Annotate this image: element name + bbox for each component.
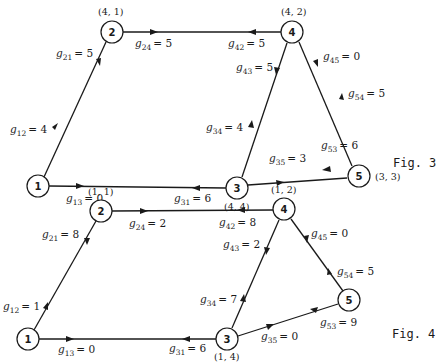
svg-text:5: 5 bbox=[356, 171, 363, 182]
label-g34: g34= 4 bbox=[206, 121, 243, 136]
svg-text:3: 3 bbox=[234, 183, 241, 194]
label-g31: g31= 6 bbox=[169, 342, 206, 357]
node-2: 2 (4, 1) bbox=[98, 6, 124, 43]
label-g45: g45= 0 bbox=[323, 50, 360, 65]
arrow-g45-icon bbox=[313, 59, 318, 67]
figure-3-caption: Fig. 3 bbox=[393, 156, 436, 170]
label-g43: g43= 5 bbox=[236, 61, 273, 76]
node-4-coord: (4, 2) bbox=[281, 6, 307, 17]
edge-3-5 bbox=[248, 178, 347, 185]
label-g24: g24= 5 bbox=[135, 37, 172, 52]
svg-text:1: 1 bbox=[35, 181, 42, 192]
arrow-g34-icon bbox=[248, 120, 254, 128]
node-2: 2 (1, 1) bbox=[88, 186, 114, 222]
label-g53: g53= 6 bbox=[321, 139, 358, 154]
svg-text:3: 3 bbox=[224, 334, 231, 345]
label-g53: g53= 9 bbox=[320, 316, 357, 331]
label-g21: g21= 8 bbox=[42, 228, 79, 243]
figure-3: 1 2 (4, 1) 3 (4, 4) 4 (4, 2) 5 (3, 3) g2… bbox=[10, 6, 436, 212]
node-4-coord: (1, 2) bbox=[271, 184, 297, 195]
node-3: 3 (4, 4) bbox=[224, 177, 250, 212]
node-1: 1 bbox=[27, 175, 49, 197]
label-g13: g13= 0 bbox=[58, 343, 95, 358]
arrow-g31-icon bbox=[192, 185, 200, 191]
label-g35: g35= 3 bbox=[269, 152, 306, 167]
edge-1-2 bbox=[44, 42, 106, 177]
arrow-g12-icon bbox=[52, 123, 58, 130]
svg-text:2: 2 bbox=[109, 27, 116, 38]
node-4: 4 (4, 2) bbox=[281, 6, 307, 43]
arrow-g13-icon bbox=[76, 183, 84, 189]
node-5-coord: (3, 3) bbox=[375, 171, 401, 182]
svg-text:4: 4 bbox=[281, 204, 288, 215]
svg-text:4: 4 bbox=[289, 27, 296, 38]
node-2-coord: (1, 1) bbox=[88, 186, 114, 197]
node-3: 3 (1, 4) bbox=[214, 328, 240, 362]
label-g12: g12= 1 bbox=[3, 300, 40, 315]
label-g42: g42= 8 bbox=[219, 216, 256, 231]
node-2-coord: (4, 1) bbox=[98, 6, 124, 17]
figure-4: 1 2 (1, 1) 3 (1, 4) 4 (1, 2) 5 g21= 8 g1… bbox=[3, 184, 435, 362]
arrow-g12-icon bbox=[43, 302, 48, 310]
svg-text:1: 1 bbox=[25, 334, 32, 345]
label-g12: g12= 4 bbox=[10, 123, 47, 138]
label-g24: g24= 2 bbox=[129, 217, 166, 232]
node-3-coord: (1, 4) bbox=[214, 351, 240, 362]
label-g21: g21= 5 bbox=[56, 47, 93, 62]
network-diagrams: 1 2 (4, 1) 3 (4, 4) 4 (4, 2) 5 (3, 3) g2… bbox=[0, 0, 440, 363]
arrow-g13-icon bbox=[66, 336, 74, 342]
label-g45: g45= 0 bbox=[311, 227, 348, 242]
label-g34: g34= 7 bbox=[200, 293, 237, 308]
node-5: 5 bbox=[338, 289, 360, 311]
node-1: 1 bbox=[17, 328, 39, 350]
node-4: 4 (1, 2) bbox=[271, 184, 297, 220]
label-g54: g54= 5 bbox=[337, 265, 374, 280]
label-g35: g35= 0 bbox=[261, 330, 298, 345]
label-g43: g43= 2 bbox=[223, 238, 260, 253]
svg-text:2: 2 bbox=[98, 206, 105, 217]
label-g31: g31= 6 bbox=[174, 192, 211, 207]
arrow-g42-icon bbox=[248, 29, 256, 35]
arrow-g53-icon bbox=[322, 166, 331, 172]
edge-4-3 bbox=[232, 220, 279, 328]
arrow-g24-icon bbox=[140, 208, 148, 214]
label-g54: g54= 5 bbox=[348, 87, 385, 102]
arrow-g54-icon bbox=[339, 93, 344, 100]
figure-4-caption: Fig. 4 bbox=[392, 327, 435, 341]
label-g42: g42= 5 bbox=[228, 37, 265, 52]
arrow-g24-icon bbox=[150, 29, 158, 35]
svg-text:5: 5 bbox=[346, 295, 353, 306]
